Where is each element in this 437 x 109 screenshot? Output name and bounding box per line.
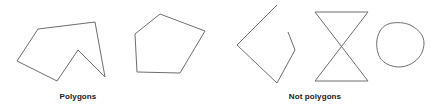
curved-blob-shape <box>377 23 424 67</box>
caption-polygons: Polygons <box>0 92 156 101</box>
polygon-classification-figure: Polygons Not polygons <box>0 0 437 109</box>
concave-heptagon-shape <box>17 22 105 81</box>
open-quadrilateral-shape <box>237 5 295 83</box>
convex-pentagon-shape <box>135 14 205 73</box>
self-intersecting-bowtie-shape <box>315 12 368 81</box>
caption-not-polygons: Not polygons <box>237 92 393 101</box>
